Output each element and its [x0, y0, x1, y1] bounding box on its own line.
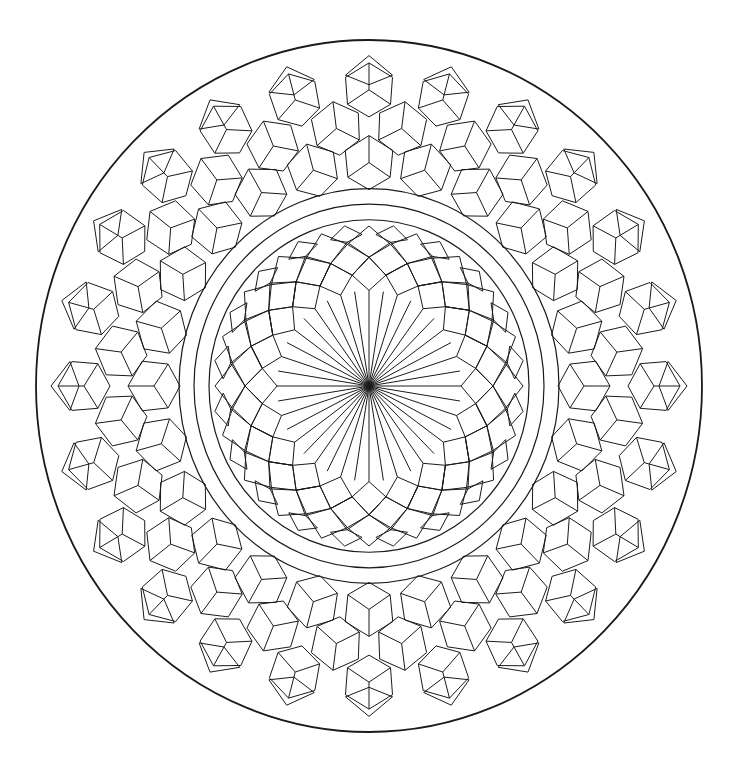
mandala-drawing [0, 0, 739, 768]
radial-spokes [277, 290, 461, 481]
